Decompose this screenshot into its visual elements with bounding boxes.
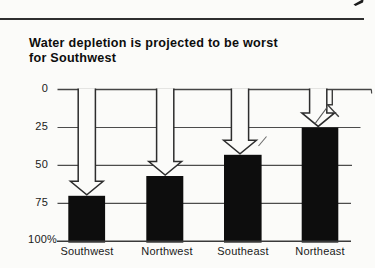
y-tick-25: 25 <box>14 120 48 132</box>
chart-title-line2: for Southwest <box>29 51 349 66</box>
y-tick-0: 0 <box>14 82 48 94</box>
x-label-northeast: Northeast <box>285 245 355 257</box>
x-label-southeast: Southeast <box>208 245 278 257</box>
scanned-chart-page: Water depletion is projected to be worst… <box>0 0 375 268</box>
bar-northeast <box>302 128 339 243</box>
x-label-southwest: Southwest <box>52 245 122 257</box>
arrow-southwest <box>70 89 103 195</box>
y-tick-75: 75 <box>14 196 48 208</box>
y-tick-100: 100% <box>14 233 57 245</box>
chart-title-line1: Water depletion is projected to be worst <box>29 36 349 51</box>
arrow-northwest <box>149 89 182 175</box>
y-tick-50: 50 <box>14 158 48 170</box>
bar-southeast <box>224 155 262 243</box>
corner-mark <box>354 0 364 6</box>
chart-title: Water depletion is projected to be worst… <box>29 36 349 66</box>
stray-mark-southeast <box>259 137 267 147</box>
arrow-southeast <box>224 89 257 154</box>
x-label-northwest: Northwest <box>132 245 202 257</box>
bar-northwest <box>146 176 183 243</box>
bar-southwest <box>68 196 105 243</box>
